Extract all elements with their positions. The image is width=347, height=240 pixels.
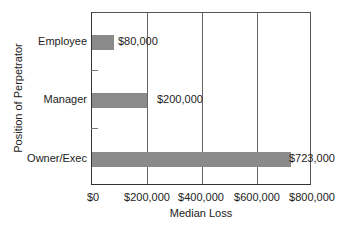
bar-owner-exec [92, 152, 291, 167]
x-tick-label: $600,000 [234, 191, 280, 204]
bar-manager [92, 93, 147, 108]
value-label: $80,000 [118, 35, 158, 48]
category-label: Employee [38, 35, 87, 48]
x-tick-label: $400,000 [178, 191, 224, 204]
x-tick-label: $0 [87, 191, 99, 204]
y-tick [91, 128, 98, 129]
x-axis-label: Median Loss [170, 207, 232, 219]
y-tick [91, 70, 98, 71]
x-tick-label: $800,000 [289, 191, 335, 204]
value-label: $723,000 [289, 152, 335, 165]
y-axis-label: Position of Perpetrator [12, 43, 24, 152]
category-label: Manager [44, 93, 87, 106]
x-tick-label: $200,000 [124, 191, 170, 204]
category-label: Owner/Exec [27, 152, 87, 165]
bar-employee [92, 35, 114, 50]
value-label: $200,000 [157, 93, 203, 106]
